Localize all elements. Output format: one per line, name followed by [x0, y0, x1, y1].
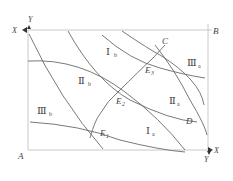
region-IIb: Ⅱ b [78, 75, 91, 87]
curve-IIa [155, 45, 207, 135]
svg-text:Ⅰ: Ⅰ [146, 125, 150, 136]
label-C: C [162, 36, 169, 46]
svg-text:3: 3 [150, 70, 154, 76]
point-E2: E 2 [115, 96, 125, 107]
svg-text:b: b [49, 111, 52, 117]
label-B: B [213, 26, 219, 36]
region-IIIa: Ⅲ a [187, 57, 201, 69]
svg-text:a: a [198, 63, 201, 69]
svg-text:b: b [114, 52, 117, 58]
axis-y-label-tl: Y [28, 15, 34, 24]
arrow-left-icon [22, 27, 27, 33]
axis-x-label-br: X [213, 146, 220, 155]
svg-text:E: E [115, 96, 122, 106]
svg-text:E: E [144, 65, 151, 75]
svg-text:a: a [177, 101, 180, 107]
svg-text:Ⅱ: Ⅱ [78, 75, 85, 86]
point-E1: E 1 [99, 128, 109, 139]
svg-text:Ⅰ: Ⅰ [106, 46, 110, 57]
svg-text:b: b [88, 81, 91, 87]
phase-diagram: A B C D Y X X Y Ⅰ b Ⅱ b Ⅲ b Ⅰ a Ⅱ a Ⅲ a … [0, 0, 233, 181]
svg-text:a: a [152, 131, 155, 137]
label-A: A [17, 151, 24, 161]
line-E1-C [90, 45, 165, 138]
arrow-up-icon [27, 25, 31, 29]
region-Ia: Ⅰ a [146, 125, 155, 137]
svg-text:E: E [99, 128, 106, 138]
curve-IIb-boundary [68, 31, 197, 122]
svg-text:2: 2 [122, 101, 125, 107]
axis-y-label-br: Y [204, 155, 210, 164]
region-IIa: Ⅱ a [169, 95, 180, 107]
svg-text:Ⅱ: Ⅱ [169, 95, 176, 106]
svg-text:Ⅲ: Ⅲ [37, 105, 47, 116]
point-E3: E 3 [144, 65, 154, 76]
axis-x-label-tl: X [11, 26, 18, 35]
svg-text:Ⅲ: Ⅲ [187, 57, 197, 68]
region-IIIb: Ⅲ b [37, 105, 52, 117]
svg-text:1: 1 [106, 133, 109, 139]
label-D: D [185, 116, 193, 126]
region-Ib: Ⅰ b [106, 46, 117, 58]
